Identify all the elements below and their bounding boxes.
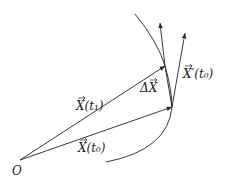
vector-delta-x <box>165 66 172 107</box>
label-origin: O <box>12 164 22 178</box>
trajectory-curve <box>106 14 172 162</box>
vector-derivative-diagram: O X(t₁) X(t₀) ΔX X′(t₀) <box>0 0 233 183</box>
label-x-t0: X(t₀) <box>77 141 106 155</box>
label-x-prime-t0: X′(t₀) <box>182 67 214 81</box>
label-delta-x: ΔX <box>139 81 158 95</box>
label-x-t1: X(t₁) <box>75 99 104 113</box>
